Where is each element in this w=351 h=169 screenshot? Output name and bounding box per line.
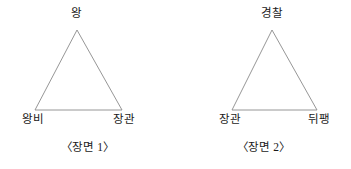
scene-1-triangle-shape	[0, 0, 175, 130]
scene-2-bottom-left-label: 장관	[219, 114, 241, 126]
scene-2-caption: 〈장면 2〉	[176, 142, 351, 154]
scene-1-group: 왕 왕비 장관 〈장면 1〉	[0, 0, 175, 169]
scene-1-apex-label: 왕	[71, 8, 82, 20]
scene-2-triangle-shape	[176, 0, 351, 130]
scene-1-bottom-left-label: 왕비	[22, 114, 44, 126]
scene-1-caption: 〈장면 1〉	[0, 142, 175, 154]
scene-1-bottom-right-label: 장관	[113, 114, 135, 126]
scene-2-bottom-right-label: 뒤팽	[308, 114, 330, 126]
scene-2-apex-label: 경찰	[261, 8, 283, 20]
scene-2-group: 경찰 장관 뒤팽 〈장면 2〉	[176, 0, 351, 169]
scene-2-triangle	[176, 0, 351, 130]
scene-1-triangle	[0, 0, 175, 130]
figure-canvas: 왕 왕비 장관 〈장면 1〉 경찰 장관 뒤팽 〈장면 2〉	[0, 0, 351, 169]
